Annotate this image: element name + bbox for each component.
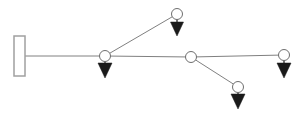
member-n1-to-n3 xyxy=(105,56,191,57)
loads-group xyxy=(98,17,291,109)
member-n3-to-n4-diagonal xyxy=(191,57,238,87)
member-n3-to-n5 xyxy=(191,55,284,57)
structure-svg xyxy=(0,0,303,120)
fixed-wall-support xyxy=(14,36,25,76)
load-arrow-at-node-lower-right-head xyxy=(231,94,245,109)
support-group xyxy=(14,36,25,76)
nodes-group xyxy=(100,9,290,93)
structural-diagram-canvas xyxy=(0,0,303,120)
node-left-joint xyxy=(100,51,111,62)
node-middle-joint xyxy=(186,52,197,63)
node-top xyxy=(172,9,183,20)
node-lower-right xyxy=(233,82,244,93)
node-right-end xyxy=(279,50,290,61)
load-arrow-at-node-left-joint-head xyxy=(98,63,112,78)
members-group xyxy=(25,14,284,87)
member-n1-to-n2-diagonal xyxy=(105,14,177,56)
load-arrow-at-node-right-end-head xyxy=(277,63,291,78)
load-arrow-at-node-top-head xyxy=(171,22,184,36)
